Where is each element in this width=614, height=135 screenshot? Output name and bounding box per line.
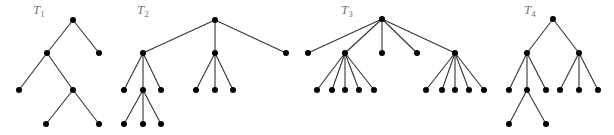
tree-node [158, 121, 164, 127]
tree-node [379, 16, 385, 22]
tree-edge [455, 53, 484, 90]
tree-edge [382, 19, 455, 53]
tree-node [452, 87, 458, 93]
tree-label: T3 [341, 2, 353, 19]
tree-node [506, 121, 512, 127]
tree-node [121, 121, 127, 127]
tree-4: T4 [506, 2, 601, 127]
tree-label: T4 [524, 2, 536, 19]
tree-node [481, 87, 487, 93]
tree-edge [124, 90, 143, 124]
tree-node [557, 87, 563, 93]
tree-node [140, 87, 146, 93]
tree-edge [426, 53, 455, 90]
tree-edge [579, 53, 598, 90]
tree-node [70, 87, 76, 93]
tree-node [371, 87, 377, 93]
tree-node [342, 50, 348, 56]
tree-edge [509, 53, 527, 90]
tree-edge [527, 53, 546, 90]
tree-edge [19, 53, 47, 90]
tree-node [193, 87, 199, 93]
tree-node [43, 121, 49, 127]
tree-node [414, 50, 420, 56]
tree-label: T2 [137, 2, 149, 19]
tree-node [524, 50, 530, 56]
tree-node [329, 87, 335, 93]
tree-node [595, 87, 601, 93]
tree-edge [345, 53, 359, 90]
tree-node [379, 50, 385, 56]
tree-node [439, 87, 445, 93]
tree-node [576, 50, 582, 56]
tree-edge [527, 90, 546, 124]
tree-edge [345, 19, 382, 53]
tree-node [506, 87, 512, 93]
tree-node [70, 17, 76, 23]
tree-1: T1 [16, 2, 102, 127]
tree-edge [308, 19, 382, 53]
tree-edge [143, 20, 215, 53]
tree-3: T3 [305, 2, 487, 93]
tree-edge [196, 53, 215, 90]
tree-edge [73, 20, 99, 53]
tree-edge [332, 53, 345, 90]
tree-node [342, 87, 348, 93]
tree-edge [143, 90, 161, 124]
tree-edge [215, 53, 233, 90]
tree-edge [73, 90, 99, 124]
tree-edge [46, 90, 73, 124]
tree-node [44, 50, 50, 56]
tree-edge [527, 19, 553, 53]
tree-node [576, 87, 582, 93]
tree-node [140, 121, 146, 127]
tree-edge [560, 53, 579, 90]
tree-node [96, 50, 102, 56]
tree-node [305, 50, 311, 56]
tree-edge [509, 90, 527, 124]
tree-edge [143, 53, 161, 90]
tree-node [283, 50, 289, 56]
tree-edge [317, 53, 345, 90]
tree-node [524, 87, 530, 93]
tree-edge [442, 53, 455, 90]
tree-label: T1 [33, 2, 45, 19]
tree-diagram: T1T2T3T4 [0, 0, 614, 135]
tree-node [212, 50, 218, 56]
tree-node [121, 87, 127, 93]
tree-node [356, 87, 362, 93]
tree-node [314, 87, 320, 93]
tree-node [423, 87, 429, 93]
tree-node [466, 87, 472, 93]
tree-node [212, 17, 218, 23]
tree-node [543, 87, 549, 93]
tree-edge [215, 20, 286, 53]
tree-node [96, 121, 102, 127]
tree-edge [47, 20, 73, 53]
tree-node [16, 87, 22, 93]
tree-node [230, 87, 236, 93]
tree-edge [455, 53, 469, 90]
tree-edge [382, 19, 417, 53]
tree-node [550, 16, 556, 22]
tree-edge [47, 53, 73, 90]
tree-edge [553, 19, 579, 53]
tree-edge [345, 53, 374, 90]
tree-node [452, 50, 458, 56]
tree-node [212, 87, 218, 93]
tree-edge [124, 53, 143, 90]
tree-node [140, 50, 146, 56]
tree-2: T2 [121, 2, 289, 127]
tree-node [543, 121, 549, 127]
tree-node [158, 87, 164, 93]
